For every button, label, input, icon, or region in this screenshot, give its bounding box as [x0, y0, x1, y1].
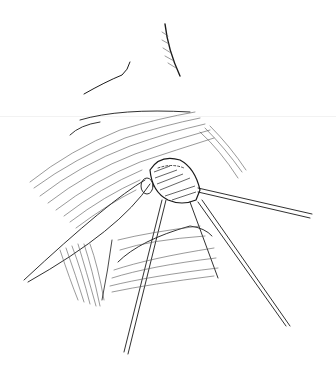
- illustration-canvas: [0, 0, 336, 386]
- brow-stroke-left: [84, 62, 130, 94]
- retraction-sutures: [24, 180, 312, 354]
- brow-stroke-right: [162, 24, 180, 76]
- surgical-illustration: [0, 0, 336, 386]
- sutured-organ: [141, 158, 200, 203]
- lower-tissue-flap: [60, 226, 218, 306]
- tissue-mass-upper: [30, 111, 246, 228]
